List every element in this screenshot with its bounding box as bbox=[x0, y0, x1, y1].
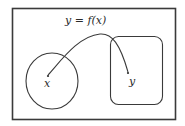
domain-set-ellipse bbox=[26, 53, 78, 109]
function-mapping-diagram: y = f(x) x y bbox=[0, 0, 185, 126]
domain-element-label: x bbox=[44, 77, 51, 90]
function-label: y = f(x) bbox=[64, 14, 106, 27]
codomain-element-dot bbox=[127, 72, 129, 74]
codomain-element-label: y bbox=[128, 75, 136, 88]
